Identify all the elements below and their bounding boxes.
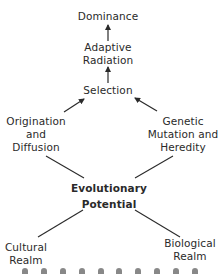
node-and-text: and xyxy=(0,128,72,141)
clipped-glyph xyxy=(173,268,179,274)
clipped-glyph xyxy=(116,268,122,274)
node-potential-text: Potential xyxy=(64,196,154,212)
clipped-glyph xyxy=(154,268,160,274)
node-diffusion-text: Diffusion xyxy=(0,141,72,154)
node-biological-text: Biological xyxy=(160,237,220,250)
node-biological-realm: Biological Realm xyxy=(160,237,220,263)
clipped-glyph xyxy=(41,268,47,274)
node-adaptive-text: Adaptive xyxy=(68,41,148,54)
clipped-glyph xyxy=(98,268,104,274)
node-cultural-realm: Cultural Realm xyxy=(0,241,52,267)
line-origination-to-potential xyxy=(46,156,84,178)
node-evolutionary-text: Evolutionary xyxy=(64,180,154,196)
node-adaptive-radiation: Adaptive Radiation xyxy=(68,41,148,67)
arrow-genetic-to-selection xyxy=(135,98,157,111)
line-genetic-to-potential xyxy=(135,156,173,178)
node-biological-realm-text: Realm xyxy=(160,250,220,263)
node-cultural-text: Cultural xyxy=(0,241,52,254)
clipped-glyph xyxy=(135,268,141,274)
node-selection: Selection xyxy=(68,84,148,97)
line-cultural-to-potential xyxy=(38,210,83,237)
node-origination-diffusion: Origination and Diffusion xyxy=(0,115,72,154)
clipped-glyph xyxy=(79,268,85,274)
node-radiation-text: Radiation xyxy=(68,54,148,67)
node-dominance: Dominance xyxy=(68,10,148,23)
clipped-glyph xyxy=(22,268,28,274)
node-mutation-and-text: Mutation and xyxy=(143,128,221,141)
clipped-glyph xyxy=(192,268,198,274)
node-heredity-text: Heredity xyxy=(143,141,221,154)
node-selection-text: Selection xyxy=(68,84,148,97)
node-cultural-realm-text: Realm xyxy=(0,254,52,267)
clipped-glyph xyxy=(60,268,66,274)
line-biological-to-potential xyxy=(135,210,180,237)
node-genetic-text: Genetic xyxy=(143,115,221,128)
node-origination-text: Origination xyxy=(0,115,72,128)
arrow-origination-to-selection xyxy=(64,99,84,112)
node-evolutionary-potential: Evolutionary Potential xyxy=(64,180,154,212)
clipped-caption-line xyxy=(22,268,198,275)
node-genetic-mutation-heredity: Genetic Mutation and Heredity xyxy=(143,115,221,154)
node-dominance-text: Dominance xyxy=(68,10,148,23)
